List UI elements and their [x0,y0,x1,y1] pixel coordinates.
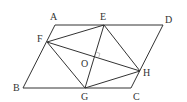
diagram-canvas: A E D F O H B G C [0,0,187,102]
segments [23,25,163,88]
label-b: B [13,82,20,93]
segment-fh [47,42,140,71]
segment-fg [47,42,85,88]
right-angle-mark [96,52,100,57]
label-d: D [165,14,172,25]
segment-he [104,25,140,71]
label-c: C [133,91,140,102]
segment-ef [47,25,104,42]
geometry-diagram: A E D F O H B G C [0,0,187,102]
segment-dc [131,25,163,88]
label-a: A [50,11,58,22]
label-g: G [81,91,88,102]
label-h: H [143,67,150,78]
label-o: O [81,58,88,69]
label-e: E [100,11,106,22]
label-f: F [37,33,43,44]
